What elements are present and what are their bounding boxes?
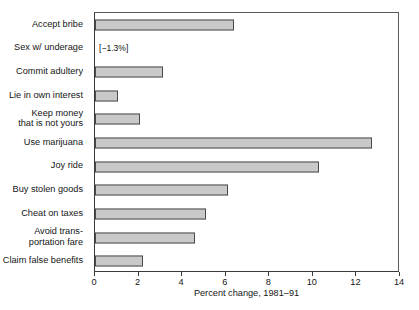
x-axis-tick	[312, 272, 313, 276]
x-axis-tick-label: 8	[256, 277, 280, 287]
category-label: Lie in own interest	[0, 90, 83, 100]
category-label: Sex w/ underage	[0, 42, 83, 52]
bar	[95, 256, 143, 267]
x-axis-tick-label: 6	[213, 277, 237, 287]
category-label: Keep money that is not yours	[0, 108, 83, 129]
bar-row	[95, 202, 398, 226]
bar	[95, 90, 118, 101]
x-axis-tick	[355, 272, 356, 276]
bar-row	[95, 84, 398, 108]
category-label: Claim false benefits	[0, 255, 83, 265]
x-axis-tick-label: 0	[82, 277, 106, 287]
category-label: Use marijuana	[0, 137, 83, 147]
bar	[95, 161, 319, 172]
category-label: Accept bribe	[0, 19, 83, 29]
bar-row	[95, 131, 398, 155]
category-label: Commit adultery	[0, 66, 83, 76]
category-label: Cheat on taxes	[0, 208, 83, 218]
bar	[95, 208, 206, 219]
bar-annotation: [−1.3%]	[99, 43, 128, 53]
x-axis-tick	[225, 272, 226, 276]
x-axis-tick-label: 2	[126, 277, 150, 287]
bar	[95, 114, 140, 125]
x-axis-tick	[268, 272, 269, 276]
bar	[95, 185, 228, 196]
bar-row	[95, 13, 398, 37]
bar-chart-figure: Accept bribeSex w/ underageCommit adulte…	[0, 0, 419, 310]
x-axis-tick-label: 4	[169, 277, 193, 287]
bar-row: [−1.3%]	[95, 37, 398, 61]
category-label: Buy stolen goods	[0, 184, 83, 194]
x-axis-tick	[399, 272, 400, 276]
bar-row	[95, 155, 398, 179]
x-axis-tick	[94, 272, 95, 276]
x-axis-tick-label: 12	[343, 277, 367, 287]
x-axis-tick-label: 14	[387, 277, 411, 287]
bar-row	[95, 226, 398, 250]
plot-area: [−1.3%]	[94, 12, 399, 272]
category-label: Joy ride	[0, 160, 83, 170]
bar	[95, 19, 234, 30]
category-label: Avoid trans- portation fare	[0, 226, 83, 247]
x-axis-tick-label: 10	[300, 277, 324, 287]
bar-row	[95, 249, 398, 273]
bar	[95, 137, 372, 148]
bar	[95, 67, 163, 78]
bar-row	[95, 60, 398, 84]
x-axis-title: Percent change, 1981–91	[94, 288, 399, 298]
bar-row	[95, 108, 398, 132]
x-axis-tick	[138, 272, 139, 276]
category-label-axis: Accept bribeSex w/ underageCommit adulte…	[0, 12, 88, 272]
bar-row	[95, 178, 398, 202]
bar	[95, 232, 195, 243]
x-axis-tick	[181, 272, 182, 276]
